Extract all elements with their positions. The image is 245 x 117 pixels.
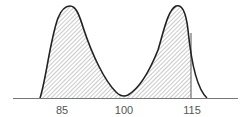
x-tick-label-100: 100 <box>115 104 133 116</box>
shaded-area <box>40 6 207 98</box>
x-tick-label-85: 85 <box>56 104 68 116</box>
bimodal-distribution-chart: 85 100 115 <box>0 0 245 117</box>
x-tick-label-115: 115 <box>183 104 201 116</box>
